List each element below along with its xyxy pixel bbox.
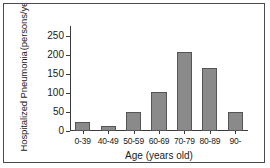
x-tick-mark	[235, 131, 236, 134]
y-axis-title-line1: Hospitalized Pneumonia	[18, 51, 29, 151]
y-tick-label: 200	[47, 50, 64, 60]
y-tick-label: 0	[58, 126, 64, 136]
y-tick-label: 50	[53, 107, 64, 117]
y-axis-title: Hospitalized Pneumonia (persons/year)	[8, 9, 38, 133]
bar	[228, 112, 243, 131]
bar-series	[70, 26, 248, 131]
x-tick-mark	[159, 131, 160, 134]
y-tick-label: 250	[47, 31, 64, 41]
x-tick-label: 0-39	[75, 136, 91, 146]
x-tick-label: 80-89	[199, 136, 220, 146]
bar	[151, 92, 166, 131]
x-tick-label: 90-	[229, 136, 241, 146]
y-tick-label: 150	[47, 69, 64, 79]
bar	[75, 122, 90, 131]
bar	[126, 112, 141, 131]
x-tick-label: 60-69	[149, 136, 170, 146]
x-tick-label: 40-49	[98, 136, 119, 146]
x-tick-mark	[210, 131, 211, 134]
x-tick-label: 50-59	[123, 136, 144, 146]
figure-frame: Hospitalized Pneumonia (persons/year) 05…	[3, 3, 265, 163]
x-tick-mark	[83, 131, 84, 134]
bar	[177, 52, 192, 131]
bar	[202, 68, 217, 131]
x-tick-mark	[134, 131, 135, 134]
y-axis-title-line2: (persons/year)	[18, 3, 29, 50]
x-tick-mark	[184, 131, 185, 134]
x-axis-title: Age (years old)	[70, 150, 248, 161]
plot-area: 050100150200250 0-3940-4950-5960-6970-79…	[70, 26, 248, 131]
x-tick-mark	[108, 131, 109, 134]
x-tick-label: 70-79	[174, 136, 195, 146]
y-tick-mark	[66, 131, 70, 132]
y-tick-label: 100	[47, 88, 64, 98]
